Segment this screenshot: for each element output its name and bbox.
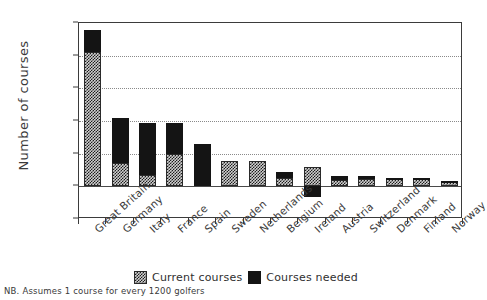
legend-item-current-courses: Current courses [134, 271, 242, 284]
bar-segment-current-courses[interactable] [386, 179, 403, 186]
legend-label-current-courses: Current courses [152, 271, 242, 284]
x-axis-tick-mark [78, 218, 79, 224]
bar-segment-courses-needed[interactable] [276, 172, 293, 178]
bar-segment-current-courses[interactable] [249, 161, 266, 186]
bar-segment-courses-needed[interactable] [194, 144, 211, 186]
bar-column[interactable] [221, 23, 238, 217]
chart-footnote: NB. Assumes 1 course for every 1200 golf… [4, 286, 205, 296]
legend-item-courses-needed: Courses needed [248, 271, 358, 284]
bar-column[interactable] [166, 23, 183, 217]
bar-column[interactable] [112, 23, 129, 217]
checkered-swatch-icon [134, 271, 147, 284]
bar-segment-courses-needed[interactable] [139, 123, 156, 175]
bar-segment-courses-needed[interactable] [112, 118, 129, 164]
bar-segment-courses-needed[interactable] [331, 176, 348, 180]
bar-segment-current-courses[interactable] [358, 179, 375, 186]
bar-segment-current-courses[interactable] [166, 154, 183, 187]
bar-segment-courses-needed[interactable] [413, 178, 430, 180]
chart-legend: Current courses Courses needed [134, 271, 364, 284]
bar-segment-courses-needed[interactable] [441, 181, 458, 183]
bar-column[interactable] [84, 23, 101, 217]
bar-segment-courses-needed[interactable] [166, 123, 183, 154]
bar-column[interactable] [358, 23, 375, 217]
bar-segment-current-courses[interactable] [84, 52, 101, 186]
bar-segment-current-courses[interactable] [331, 180, 348, 186]
bar-segment-current-courses[interactable] [112, 163, 129, 186]
bar-column[interactable] [441, 23, 458, 217]
black-swatch-icon [248, 271, 261, 284]
bar-column[interactable] [386, 23, 403, 217]
bar-segment-current-courses[interactable] [221, 161, 238, 186]
bar-segment-courses-needed[interactable] [386, 178, 403, 180]
bar-column[interactable] [249, 23, 266, 217]
bar-segment-current-courses[interactable] [276, 178, 293, 186]
y-axis-title: Number of courses [16, 21, 31, 191]
bar-column[interactable] [331, 23, 348, 217]
bar-column[interactable] [194, 23, 211, 217]
bar-column[interactable] [276, 23, 293, 217]
bar-segment-courses-needed[interactable] [358, 176, 375, 180]
bar-segment-courses-needed[interactable] [84, 30, 101, 53]
legend-label-courses-needed: Courses needed [266, 271, 358, 284]
